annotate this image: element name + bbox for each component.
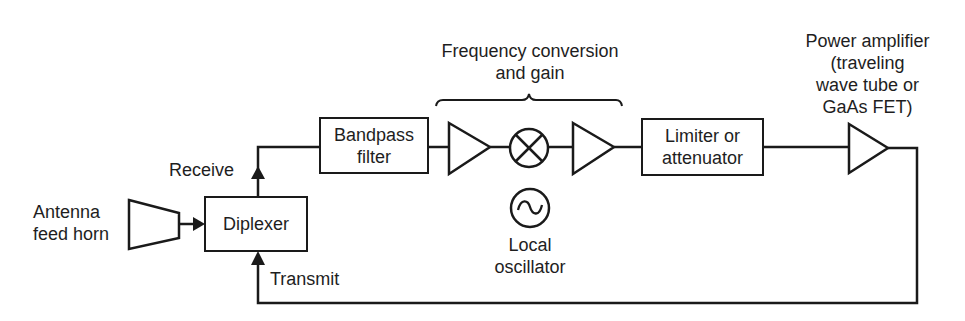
brace-icon [436, 94, 622, 106]
arrowhead-receive [251, 166, 265, 179]
freq-conversion-label: Frequency conversion and gain [420, 40, 640, 84]
bandpass-filter-block: Bandpass filter [319, 117, 429, 174]
diplexer-block: Diplexer [204, 196, 308, 252]
diplexer-label: Diplexer [223, 213, 289, 235]
power-amplifier-label: Power amplifier (traveling wave tube or … [780, 30, 955, 118]
power-amplifier-line1: Power amplifier [780, 30, 955, 52]
freq-conversion-line1: Frequency conversion [420, 40, 640, 62]
bandpass-label-line2: filter [357, 146, 391, 168]
receive-label: Receive [169, 159, 234, 181]
antenna-label: Antenna feed horn [33, 201, 109, 245]
wire-receive [258, 147, 319, 196]
amplifier-2-icon [573, 123, 614, 174]
local-oscillator-label: Local oscillator [470, 234, 590, 278]
amplifier-1-icon [449, 123, 490, 174]
power-amplifier-icon [849, 124, 888, 173]
freq-conversion-line2: and gain [420, 62, 640, 84]
bandpass-label-line1: Bandpass [334, 124, 414, 146]
limiter-attenuator-block: Limiter or attenuator [641, 118, 764, 176]
limiter-label-line1: Limiter or [665, 125, 740, 147]
local-oscillator-line1: Local [470, 234, 590, 256]
power-amplifier-line4: GaAs FET) [780, 96, 955, 118]
antenna-line1: Antenna [33, 201, 109, 223]
limiter-label-line2: attenuator [662, 147, 743, 169]
power-amplifier-line2: (traveling [780, 52, 955, 74]
power-amplifier-line3: wave tube or [780, 74, 955, 96]
mixer-icon [510, 129, 548, 167]
transmit-label: Transmit [270, 268, 339, 290]
antenna-line2: feed horn [33, 223, 109, 245]
local-oscillator-line2: oscillator [470, 256, 590, 278]
antenna-feed-horn-icon [129, 200, 179, 249]
arrowhead-transmit [251, 251, 265, 265]
local-oscillator-icon [511, 189, 549, 227]
